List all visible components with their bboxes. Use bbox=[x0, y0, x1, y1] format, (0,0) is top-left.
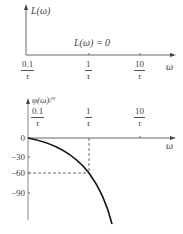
y-tick-minus90: −90 bbox=[5, 189, 25, 198]
bottom-y-label: φ(ω)/° bbox=[32, 96, 55, 105]
bode-diagram bbox=[0, 0, 183, 234]
top-x-label: ω bbox=[166, 62, 173, 72]
bottom-y-arrow-icon bbox=[26, 98, 30, 104]
top-x-tick-1: 1τ bbox=[85, 60, 92, 81]
top-x-tick-2: 10τ bbox=[134, 60, 145, 81]
y-tick-minus60: −60 bbox=[5, 169, 25, 178]
top-y-label: L(ω) bbox=[31, 6, 50, 16]
top-y-arrow-icon bbox=[24, 4, 28, 10]
phase-curve bbox=[28, 138, 112, 224]
top-x-tick-0: 0.1τ bbox=[21, 60, 34, 81]
top-x-arrow-icon bbox=[170, 53, 176, 57]
bottom-x-tick-2: 10τ bbox=[134, 107, 145, 128]
y-tick-0: 0 bbox=[5, 134, 25, 143]
bottom-x-tick-1: 1τ bbox=[85, 107, 92, 128]
y-tick-minus30: −30 bbox=[5, 153, 25, 162]
bottom-x-tick-0: 0.1τ bbox=[31, 107, 44, 128]
bottom-x-label: ω bbox=[166, 141, 173, 151]
top-annotation: L(ω) = 0 bbox=[74, 38, 110, 48]
